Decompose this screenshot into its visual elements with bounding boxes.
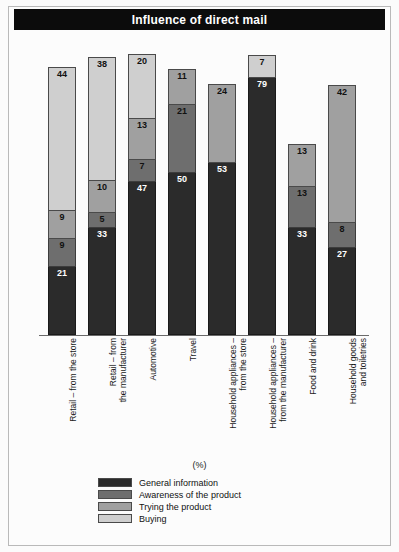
category-label-7: Food and drink (308, 338, 336, 456)
bar-7: 331313 (288, 145, 316, 335)
bar-segment: 20 (128, 54, 156, 119)
bar-segment: 13 (288, 144, 316, 187)
bar-value-label: 13 (297, 145, 307, 156)
bar-segment: 13 (288, 186, 316, 229)
plot-area: 2199443351038477132050211153247973313132… (14, 36, 385, 336)
legend-item: Buying (98, 513, 328, 524)
chart-figure: Influence of direct mail 219944335103847… (0, 0, 399, 552)
bar-value-label: 21 (177, 105, 187, 116)
bar-value-label: 13 (137, 119, 147, 130)
legend-item: General information (98, 477, 328, 488)
bar-value-label: 10 (97, 181, 107, 192)
bar-value-label: 20 (137, 55, 147, 66)
bar-segment: 42 (328, 85, 356, 222)
bar-value-label: 5 (99, 213, 104, 224)
bar-segment: 9 (48, 210, 76, 239)
bar-segment: 21 (48, 266, 76, 335)
bar-segment: 11 (168, 69, 196, 105)
bar-value-label: 27 (337, 248, 347, 259)
category-label-5: Household appliances – from the store (228, 338, 256, 456)
bar-4: 502111 (168, 70, 196, 335)
bar-value-label: 33 (297, 228, 307, 239)
bar-value-label: 38 (97, 58, 107, 69)
x-axis-line (39, 335, 369, 336)
category-label-3: Automotive (148, 338, 176, 456)
bar-segment: 5 (88, 212, 116, 228)
category-label-4: Travel (188, 338, 216, 456)
bar-2: 3351038 (88, 58, 116, 335)
bar-segment: 24 (208, 84, 236, 162)
bar-8: 27842 (328, 86, 356, 335)
chart-title-bar: Influence of direct mail (14, 9, 385, 30)
axis-unit-label: (%) (0, 460, 399, 470)
bar-segment: 33 (288, 227, 316, 335)
bar-segment: 9 (48, 238, 76, 267)
bar-value-label: 53 (217, 163, 227, 174)
legend-label: Trying the product (139, 502, 211, 512)
bar-value-label: 33 (97, 228, 107, 239)
bar-value-label: 44 (57, 68, 67, 79)
category-label-1: Retail – from the store (68, 338, 96, 456)
bar-value-label: 11 (177, 70, 187, 81)
legend-label: General information (139, 478, 218, 488)
category-label-2: Retail – from the manufacturer (108, 338, 136, 456)
legend-item: Trying the product (98, 501, 328, 512)
bar-value-label: 24 (217, 85, 227, 96)
bar-value-label: 13 (297, 187, 307, 198)
bar-value-label: 21 (57, 267, 67, 278)
bar-value-label: 47 (137, 182, 147, 193)
category-label-6: Household appliances – from the manufact… (268, 338, 296, 456)
bar-value-label: 7 (259, 56, 264, 67)
bar-segment: 33 (88, 227, 116, 335)
legend-label: Awareness of the product (139, 490, 241, 500)
bar-segment: 79 (248, 77, 276, 335)
bar-value-label: 9 (59, 211, 64, 222)
bar-segment: 10 (88, 180, 116, 213)
bar-segment: 21 (168, 104, 196, 173)
legend-swatch-icon (98, 502, 132, 511)
bar-segment: 27 (328, 247, 356, 335)
bar-value-label: 42 (337, 86, 347, 97)
bar-segment: 44 (48, 67, 76, 211)
bar-value-label: 8 (339, 223, 344, 234)
legend-swatch-icon (98, 478, 132, 487)
bar-value-label: 50 (177, 173, 187, 184)
legend-label: Buying (139, 514, 167, 524)
legend-swatch-icon (98, 514, 132, 523)
bar-segment: 53 (208, 162, 236, 335)
page-title: Influence of direct mail (132, 13, 268, 27)
bar-3: 4771320 (128, 55, 156, 335)
bar-segment: 8 (328, 222, 356, 248)
legend-swatch-icon (98, 490, 132, 499)
bar-segment: 7 (248, 55, 276, 78)
bar-value-label: 79 (257, 78, 267, 89)
bar-value-label: 9 (59, 239, 64, 250)
legend-item: Awareness of the product (98, 489, 328, 500)
bar-segment: 7 (128, 159, 156, 182)
bar-6: 797 (248, 56, 276, 335)
bar-segment: 50 (168, 172, 196, 336)
category-label-group: Retail – from the storeRetail – from the… (14, 338, 385, 456)
bar-5: 5324 (208, 85, 236, 335)
bar-1: 219944 (48, 68, 76, 335)
chart-legend: General informationAwareness of the prod… (98, 477, 328, 525)
category-label-8: Household goods and toiletries (348, 338, 376, 456)
bar-value-label: 7 (139, 160, 144, 171)
bar-segment: 13 (128, 118, 156, 161)
bar-segment: 38 (88, 57, 116, 181)
bar-segment: 47 (128, 181, 156, 335)
